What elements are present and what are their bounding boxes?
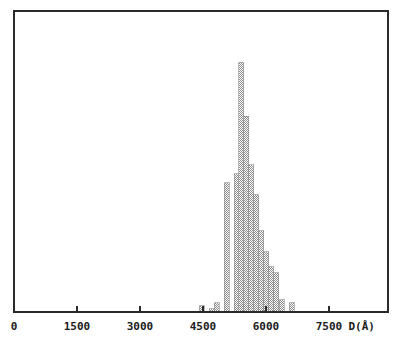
x-tick-label: 6000 xyxy=(253,320,280,333)
histogram-bar xyxy=(279,300,284,312)
histogram-bar xyxy=(269,267,274,312)
histogram-figure: 015003000450060007500 D(Å) xyxy=(0,0,410,343)
x-tick-label: 0 xyxy=(11,320,18,333)
x-axis-title: D(Å) xyxy=(349,320,376,333)
histogram-bar xyxy=(214,303,219,312)
x-tick-label: 7500 xyxy=(316,320,343,333)
histogram-bar xyxy=(244,116,249,312)
histogram-bar xyxy=(249,165,254,312)
histogram-bar xyxy=(234,174,239,312)
histogram-bar xyxy=(254,195,259,312)
histogram-bar xyxy=(259,231,264,312)
x-axis-tick-labels: 015003000450060007500 xyxy=(11,320,343,333)
histogram-bar xyxy=(224,183,229,312)
x-tick-label: 4500 xyxy=(190,320,217,333)
histogram-bar xyxy=(274,273,279,312)
histogram-bar xyxy=(239,62,244,312)
histogram-bar xyxy=(289,303,294,312)
x-tick-label: 1500 xyxy=(64,320,91,333)
histogram-plot: 015003000450060007500 D(Å) xyxy=(0,0,410,343)
x-tick-label: 3000 xyxy=(127,320,154,333)
histogram-bar xyxy=(264,252,269,312)
plot-background xyxy=(14,11,388,312)
